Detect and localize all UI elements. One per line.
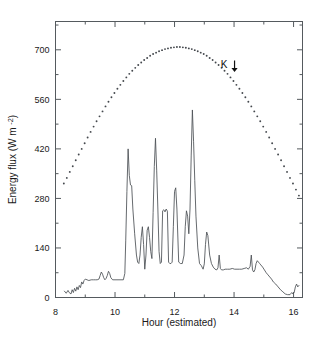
dotted-data-point bbox=[253, 110, 255, 112]
k-label: K bbox=[221, 59, 228, 70]
dotted-data-point bbox=[292, 183, 294, 185]
dotted-data-point bbox=[247, 101, 249, 103]
down-arrow-head bbox=[231, 68, 237, 72]
dotted-data-point bbox=[158, 50, 160, 52]
dotted-data-point bbox=[137, 64, 139, 66]
dotted-data-point bbox=[72, 165, 74, 167]
dotted-data-point bbox=[203, 53, 205, 55]
dotted-data-point bbox=[241, 92, 243, 94]
dotted-data-point bbox=[265, 131, 267, 133]
dotted-data-point bbox=[256, 115, 258, 117]
dotted-data-point bbox=[250, 105, 252, 107]
x-tick-labels: 810121416 bbox=[53, 307, 299, 317]
dotted-data-point bbox=[108, 101, 110, 103]
energy-flux-plot: 810121416 0140280420560700 K Hour (estim… bbox=[0, 0, 327, 339]
dotted-data-point bbox=[295, 189, 297, 191]
dotted-data-point bbox=[122, 80, 124, 82]
dotted-data-point bbox=[262, 126, 264, 128]
axis-ticks bbox=[56, 22, 303, 298]
measured-flux-line-series bbox=[64, 110, 299, 295]
dotted-data-point bbox=[113, 92, 115, 94]
dotted-data-point bbox=[149, 55, 151, 57]
x-tick-label: 14 bbox=[229, 307, 239, 317]
x-tick-label: 16 bbox=[289, 307, 299, 317]
dotted-data-point bbox=[274, 148, 276, 150]
clear-sky-dotted-series bbox=[63, 46, 300, 197]
dotted-data-point bbox=[111, 96, 113, 98]
dotted-data-point bbox=[93, 126, 95, 128]
dotted-data-point bbox=[161, 49, 163, 51]
dotted-data-point bbox=[280, 159, 282, 161]
dotted-data-point bbox=[235, 84, 237, 86]
dotted-data-point bbox=[164, 48, 166, 50]
x-axis-title: Hour (estimated) bbox=[142, 317, 216, 328]
dotted-data-point bbox=[131, 70, 133, 72]
dotted-data-point bbox=[215, 62, 217, 64]
y-axis-title: Energy flux (W m -2) bbox=[6, 115, 18, 204]
x-tick-label: 10 bbox=[110, 307, 120, 317]
dotted-data-point bbox=[206, 55, 208, 57]
dotted-data-point bbox=[125, 76, 127, 78]
dotted-data-point bbox=[167, 47, 169, 49]
dotted-data-point bbox=[170, 47, 172, 49]
dotted-data-point bbox=[119, 84, 121, 86]
dotted-data-point bbox=[218, 64, 220, 66]
dotted-data-point bbox=[289, 177, 291, 179]
chart-figure: 810121416 0140280420560700 K Hour (estim… bbox=[0, 0, 327, 339]
dotted-data-point bbox=[185, 47, 187, 49]
y-tick-label: 560 bbox=[34, 95, 49, 105]
dotted-data-point bbox=[63, 183, 65, 185]
dotted-data-point bbox=[152, 53, 154, 55]
dotted-data-point bbox=[188, 47, 190, 49]
dotted-data-point bbox=[230, 76, 232, 78]
x-tick-label: 12 bbox=[170, 307, 180, 317]
dotted-data-point bbox=[298, 195, 300, 197]
dotted-data-point bbox=[78, 154, 80, 156]
dotted-data-point bbox=[212, 59, 214, 61]
y-tick-label: 700 bbox=[34, 45, 49, 55]
dotted-data-point bbox=[66, 177, 68, 179]
dotted-data-point bbox=[81, 148, 83, 150]
dotted-data-point bbox=[268, 137, 270, 139]
dotted-data-point bbox=[194, 49, 196, 51]
dotted-data-point bbox=[197, 50, 199, 52]
dotted-data-point bbox=[283, 165, 285, 167]
plot-frame bbox=[56, 22, 303, 298]
dotted-data-point bbox=[99, 115, 101, 117]
dotted-data-point bbox=[191, 48, 193, 50]
dotted-data-point bbox=[128, 73, 130, 75]
dotted-data-point bbox=[286, 171, 288, 173]
dotted-data-point bbox=[173, 46, 175, 48]
dotted-data-point bbox=[179, 46, 181, 48]
dotted-data-point bbox=[105, 105, 107, 107]
y-tick-label: 140 bbox=[34, 243, 49, 253]
dotted-data-point bbox=[155, 52, 157, 54]
dotted-data-point bbox=[244, 96, 246, 98]
dotted-data-point bbox=[182, 46, 184, 48]
x-tick-label: 8 bbox=[53, 307, 58, 317]
dotted-data-point bbox=[140, 62, 142, 64]
dotted-data-point bbox=[146, 57, 148, 59]
dotted-data-point bbox=[143, 59, 145, 61]
dotted-data-point bbox=[238, 88, 240, 90]
y-tick-label: 280 bbox=[34, 194, 49, 204]
dotted-data-point bbox=[96, 120, 98, 122]
measured-flux-path bbox=[64, 110, 299, 295]
dotted-data-point bbox=[75, 159, 77, 161]
dotted-data-point bbox=[227, 73, 229, 75]
dotted-data-point bbox=[134, 67, 136, 69]
k-annotation-group: K bbox=[221, 59, 238, 73]
y-tick-label: 0 bbox=[44, 293, 49, 303]
dotted-data-point bbox=[90, 131, 92, 133]
dotted-data-point bbox=[116, 88, 118, 90]
dotted-data-point bbox=[176, 46, 178, 48]
y-tick-labels: 0140280420560700 bbox=[34, 45, 49, 303]
dotted-data-point bbox=[233, 80, 235, 82]
dotted-data-point bbox=[102, 110, 104, 112]
dotted-data-point bbox=[259, 120, 261, 122]
y-tick-label: 420 bbox=[34, 144, 49, 154]
dotted-data-point bbox=[209, 57, 211, 59]
dotted-data-point bbox=[200, 52, 202, 54]
dotted-data-point bbox=[271, 142, 273, 144]
dotted-data-point bbox=[87, 137, 89, 139]
